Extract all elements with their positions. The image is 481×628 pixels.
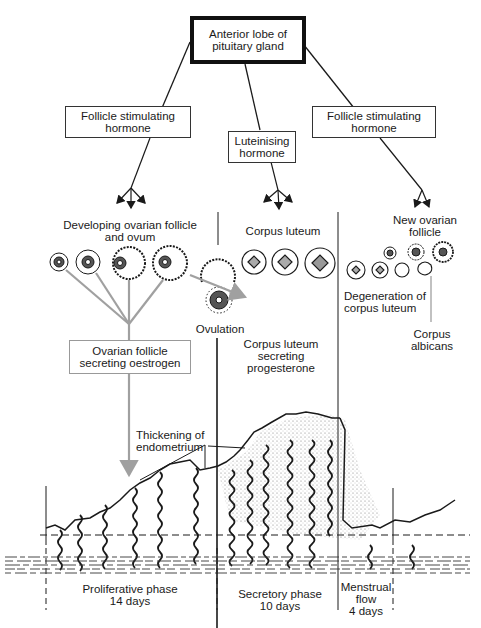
oestrogen-line1: Ovarian follicle <box>79 345 180 357</box>
corpus-luteum-bodies <box>242 248 335 278</box>
fsh-right-arrows <box>380 138 429 207</box>
new-follicle-line2: follicle <box>409 226 441 238</box>
fsh-left-line2: hormone <box>81 122 175 134</box>
degeneration-label: Degeneration of corpus luteum <box>344 290 426 314</box>
thickening-label: Thickening of endometrium <box>136 429 204 453</box>
endometrium-drawing <box>5 412 470 573</box>
fsh-right-box: Follicle stimulating hormone <box>312 106 436 138</box>
degenerating-corpus-luteum <box>347 261 432 279</box>
new-follicle-label: New ovarian follicle <box>385 214 465 238</box>
pituitary-line1: Anterior lobe of <box>209 28 287 40</box>
fsh-left-line1: Follicle stimulating <box>81 110 175 122</box>
corpus-albicans-line1: Corpus <box>413 328 450 340</box>
ovulation-label: Ovulation <box>190 323 250 335</box>
fsh-left-box: Follicle stimulating hormone <box>65 106 191 138</box>
diagram-drawing <box>0 0 481 628</box>
developing-follicle-line1: Developing ovarian follicle <box>63 219 197 231</box>
thickening-line1: Thickening of <box>136 429 204 441</box>
phase-menstrual: Menstrual flow 4 days <box>336 581 396 617</box>
lh-box: Luteinising hormone <box>228 131 296 163</box>
pituitary-box: Anterior lobe of pituitary gland <box>190 16 306 64</box>
fsh-left-arrows <box>117 138 150 208</box>
corpus-luteum-label: Corpus luteum <box>238 225 328 237</box>
phase-proliferative: Proliferative phase 14 days <box>70 583 190 607</box>
thickening-line2: endometrium <box>136 441 203 453</box>
lh-line1: Luteinising <box>235 135 290 147</box>
fsh-right-line2: hormone <box>327 122 421 134</box>
phase-proliferative-duration: 14 days <box>110 595 150 607</box>
cl-progesterone-label: Corpus luteum secreting progesterone <box>236 338 326 374</box>
cl-progesterone-line1: Corpus luteum <box>244 338 319 350</box>
phase-menstrual-name2: flow <box>356 593 376 605</box>
lh-arrows <box>264 158 292 209</box>
pituitary-line2: pituitary gland <box>209 40 287 52</box>
developing-follicle-line2: and ovum <box>105 231 156 243</box>
basal-layer <box>5 557 470 573</box>
phase-menstrual-duration: 4 days <box>349 605 383 617</box>
corpus-albicans-label: Corpus albicans <box>410 328 454 352</box>
phase-secretory: Secretory phase 10 days <box>230 588 330 612</box>
phase-secretory-duration: 10 days <box>260 600 300 612</box>
lh-line2: hormone <box>235 147 290 159</box>
new-follicles <box>384 242 453 262</box>
oestrogen-box: Ovarian follicle secreting oestrogen <box>69 340 191 374</box>
phase-menstrual-name: Menstrual <box>341 581 392 593</box>
degeneration-line2: corpus luteum <box>344 302 416 314</box>
phase-secretory-name: Secretory phase <box>238 588 322 600</box>
oestrogen-line2: secreting oestrogen <box>79 357 180 369</box>
phase-proliferative-name: Proliferative phase <box>82 583 177 595</box>
new-follicle-line1: New ovarian <box>393 214 457 226</box>
degeneration-line1: Degeneration of <box>344 290 426 302</box>
fsh-right-line1: Follicle stimulating <box>327 110 421 122</box>
cl-progesterone-line3: progesterone <box>247 362 315 374</box>
corpus-albicans-line2: albicans <box>411 340 453 352</box>
developing-follicle-label: Developing ovarian follicle and ovum <box>60 219 200 243</box>
cl-progesterone-line2: secreting <box>258 350 305 362</box>
